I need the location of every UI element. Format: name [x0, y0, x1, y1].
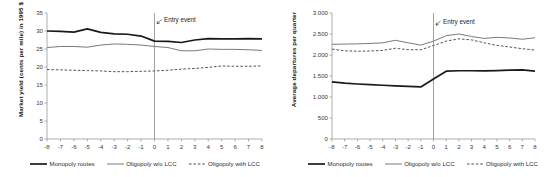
svg-text:7: 7	[247, 143, 251, 150]
y-axis-title-right: Average departures per quarter	[287, 0, 301, 148]
line-chart-left: 05101520253035-8-7-6-5-4-3-2-1012345678E…	[27, 8, 265, 163]
svg-text:3: 3	[470, 143, 474, 150]
svg-text:25: 25	[36, 45, 43, 52]
svg-text:-6: -6	[355, 143, 361, 150]
svg-text:-8: -8	[44, 143, 50, 150]
svg-text:-1: -1	[418, 143, 424, 150]
svg-text:-3: -3	[393, 143, 399, 150]
svg-text:2: 2	[457, 143, 461, 150]
svg-text:7: 7	[521, 143, 525, 150]
legend-label-oligopoly-with-lcc: Oligopoly with LCC	[486, 160, 538, 168]
svg-text:1: 1	[444, 143, 448, 150]
legend-item-monopoly-routes[interactable]: Monopoly routes	[308, 160, 373, 168]
legend-left: Monopoly routes Oligopoly w/o LCC Oligop…	[20, 160, 270, 168]
legend-item-oligopoly-wo-lcc[interactable]: Oligopoly w/o LCC	[107, 160, 177, 168]
svg-text:-4: -4	[98, 143, 104, 150]
svg-text:-1: -1	[138, 143, 144, 150]
svg-text:0: 0	[153, 143, 157, 150]
plot-area-right: 05001.0001.5002.0002.5003.000-8-7-6-5-4-…	[305, 8, 538, 139]
svg-text:2: 2	[180, 143, 184, 150]
svg-text:3.000: 3.000	[313, 9, 329, 16]
svg-text:Entry event: Entry event	[443, 18, 475, 26]
svg-text:4: 4	[483, 143, 487, 150]
svg-text:35: 35	[36, 9, 43, 16]
svg-text:-4: -4	[380, 143, 386, 150]
svg-text:6: 6	[233, 143, 237, 150]
svg-text:0: 0	[432, 143, 436, 150]
svg-text:5: 5	[495, 143, 499, 150]
svg-text:1.000: 1.000	[313, 93, 329, 100]
legend-label-monopoly-routes: Monopoly routes	[50, 160, 95, 168]
svg-text:4: 4	[207, 143, 211, 150]
svg-text:1.500: 1.500	[313, 72, 329, 79]
legend-swatch-solid-thick-icon	[30, 160, 47, 168]
svg-text:5: 5	[220, 143, 224, 150]
right-panel: Average departures per quarter 05001.000…	[273, 0, 546, 177]
svg-text:-7: -7	[58, 143, 64, 150]
svg-text:-6: -6	[71, 143, 77, 150]
legend-item-monopoly-routes[interactable]: Monopoly routes	[30, 160, 95, 168]
svg-text:-2: -2	[405, 143, 411, 150]
svg-text:10: 10	[36, 99, 43, 106]
line-chart-right: 05001.0001.5002.0002.5003.000-8-7-6-5-4-…	[305, 8, 538, 163]
svg-text:-5: -5	[367, 143, 373, 150]
svg-text:-5: -5	[85, 143, 91, 150]
y-axis-title-left: Market yield (cents per mile) in 1995 $	[14, 0, 28, 148]
svg-text:1: 1	[166, 143, 170, 150]
svg-text:30: 30	[36, 27, 43, 34]
legend-swatch-dashed-icon	[467, 160, 484, 168]
svg-text:8: 8	[260, 143, 264, 150]
left-panel: Market yield (cents per mile) in 1995 $ …	[0, 0, 273, 177]
legend-label-oligopoly-wo-lcc: Oligopoly w/o LCC	[404, 160, 454, 168]
legend-swatch-solid-thin-icon	[385, 160, 402, 168]
svg-text:2.000: 2.000	[313, 51, 329, 58]
svg-text:5: 5	[40, 117, 44, 124]
legend-swatch-solid-thin-icon	[107, 160, 124, 168]
legend-label-oligopoly-with-lcc: Oligopoly with LCC	[208, 160, 260, 168]
legend-swatch-dashed-icon	[189, 160, 206, 168]
svg-text:2.500: 2.500	[313, 30, 329, 37]
svg-text:0: 0	[40, 135, 44, 142]
svg-text:Entry event: Entry event	[164, 16, 196, 24]
svg-text:8: 8	[533, 143, 537, 150]
svg-text:-2: -2	[125, 143, 131, 150]
legend-label-monopoly-routes: Monopoly routes	[328, 160, 373, 168]
svg-text:500: 500	[318, 114, 329, 121]
svg-text:3: 3	[193, 143, 197, 150]
legend-label-oligopoly-wo-lcc: Oligopoly w/o LCC	[126, 160, 176, 168]
figure-container: Market yield (cents per mile) in 1995 $ …	[0, 0, 546, 177]
legend-item-oligopoly-with-lcc[interactable]: Oligopoly with LCC	[467, 160, 538, 168]
svg-text:-7: -7	[342, 143, 348, 150]
svg-text:0: 0	[325, 135, 329, 142]
legend-item-oligopoly-wo-lcc[interactable]: Oligopoly w/o LCC	[385, 160, 455, 168]
svg-text:-8: -8	[329, 143, 335, 150]
svg-text:-3: -3	[111, 143, 117, 150]
legend-right: Monopoly routes Oligopoly w/o LCC Oligop…	[301, 160, 545, 168]
legend-swatch-solid-thick-icon	[308, 160, 325, 168]
svg-text:20: 20	[36, 63, 43, 70]
svg-text:15: 15	[36, 81, 43, 88]
svg-text:6: 6	[508, 143, 512, 150]
plot-area-left: 05101520253035-8-7-6-5-4-3-2-1012345678E…	[27, 8, 265, 139]
legend-item-oligopoly-with-lcc[interactable]: Oligopoly with LCC	[189, 160, 260, 168]
